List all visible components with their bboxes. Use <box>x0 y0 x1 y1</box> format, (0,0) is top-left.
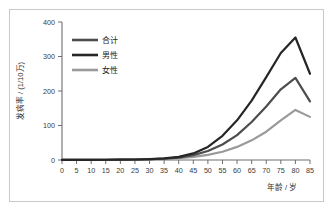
x-tick-label: 25 <box>131 166 139 175</box>
x-tick-label: 60 <box>233 166 241 175</box>
x-tick-label: 70 <box>262 166 270 175</box>
x-tick-label: 45 <box>189 166 197 175</box>
x-axis-title: 年龄 / 岁 <box>267 182 297 192</box>
y-tick-label: 400 <box>43 18 55 27</box>
x-tick-label: 40 <box>175 166 183 175</box>
x-tick-label: 0 <box>60 166 64 175</box>
x-tick-label: 75 <box>277 166 285 175</box>
legend-label-男性: 男性 <box>102 50 118 60</box>
x-axis-tick-labels: 0510152025303540455055606570758085 <box>60 166 314 175</box>
series-line-女性 <box>62 110 310 160</box>
y-tick-label: 0 <box>51 156 55 165</box>
legend-label-女性: 女性 <box>102 65 118 75</box>
x-tick-label: 30 <box>146 166 154 175</box>
line-chart: 0100200300400 05101520253035404550556065… <box>10 10 323 201</box>
chart-legend: 合计男性女性 <box>72 35 118 75</box>
x-tick-label: 80 <box>291 166 299 175</box>
x-tick-label: 55 <box>218 166 226 175</box>
chart-figure: 0100200300400 05101520253035404550556065… <box>9 9 324 202</box>
y-tick-label: 300 <box>43 52 55 61</box>
series-group <box>62 38 310 160</box>
y-tick-label: 100 <box>43 121 55 130</box>
x-tick-label: 50 <box>204 166 212 175</box>
y-axis-tick-labels: 0100200300400 <box>43 18 55 165</box>
x-tick-label: 65 <box>248 166 256 175</box>
x-tick-label: 85 <box>306 166 314 175</box>
x-tick-label: 15 <box>102 166 110 175</box>
y-axis-ticks <box>58 22 62 160</box>
x-tick-label: 10 <box>87 166 95 175</box>
x-tick-label: 5 <box>75 166 79 175</box>
series-line-合计 <box>62 78 310 160</box>
y-axis-title: 发病率 / (1/10万) <box>15 61 25 120</box>
x-tick-label: 20 <box>116 166 124 175</box>
legend-label-合计: 合计 <box>102 35 118 45</box>
y-tick-label: 200 <box>43 87 55 96</box>
x-tick-label: 35 <box>160 166 168 175</box>
